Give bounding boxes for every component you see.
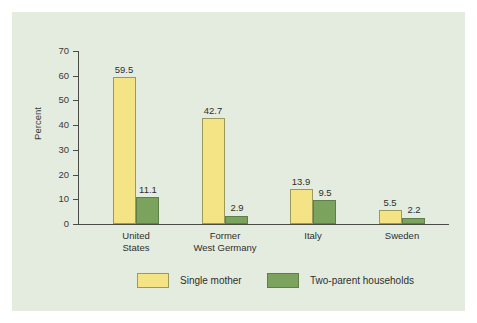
y-tick-label-60: 60 [43,71,69,81]
chart-figure: Percent 70 60 50 40 30 20 10 0 59.5 [0,0,477,323]
y-tick-label-40: 40 [43,120,69,130]
y-tick-label-20: 20 [43,170,69,180]
category-label-line-1: Sweden [347,230,457,242]
y-tick-60 [73,76,78,77]
y-tick-10 [73,199,78,200]
y-tick-label-50: 50 [43,95,69,105]
legend-label-single-mother: Single mother [180,275,242,286]
bar-value-sweden-two-parent: 2.2 [394,204,434,215]
bar-value-united-states-single-mother: 59.5 [104,64,144,75]
bar-united-states-single-mother[interactable] [113,77,136,224]
y-tick-20 [73,175,78,176]
legend-item-single-mother[interactable]: Single mother [137,270,242,290]
bar-value-former-west-germany-two-parent: 2.9 [217,202,257,213]
chart-panel: Percent 70 60 50 40 30 20 10 0 59.5 [12,12,465,311]
y-tick-40 [73,125,78,126]
category-label-sweden: Sweden [347,230,457,242]
y-tick-50 [73,100,78,101]
bar-value-italy-single-mother: 13.9 [281,176,321,187]
x-axis-line [78,224,449,225]
legend-swatch-two-parent-households [267,273,299,288]
bar-value-italy-two-parent: 9.5 [305,187,345,198]
y-axis-title: Percent [32,94,43,154]
bar-sweden-two-parent[interactable] [402,218,425,224]
category-label-line-2: West Germany [170,242,280,254]
legend-label-two-parent-households: Two-parent households [310,275,414,286]
bar-value-former-west-germany-single-mother: 42.7 [193,105,233,116]
y-tick-label-0: 0 [43,219,69,229]
y-axis-line [78,51,79,224]
chart-legend: Single mother Two-parent households [12,270,465,296]
y-tick-label-30: 30 [43,145,69,155]
bar-italy-two-parent[interactable] [313,200,336,224]
bar-united-states-two-parent[interactable] [136,197,159,224]
y-tick-label-10: 10 [43,194,69,204]
bar-former-west-germany-two-parent[interactable] [225,216,248,224]
legend-item-two-parent-households[interactable]: Two-parent households [267,270,414,290]
y-tick-30 [73,150,78,151]
plot-area: Percent 70 60 50 40 30 20 10 0 59.5 [12,12,465,311]
y-tick-0 [73,224,78,225]
y-tick-label-70: 70 [43,46,69,56]
legend-swatch-single-mother [137,273,169,288]
y-tick-70 [73,51,78,52]
bar-value-united-states-two-parent: 11.1 [128,184,168,195]
